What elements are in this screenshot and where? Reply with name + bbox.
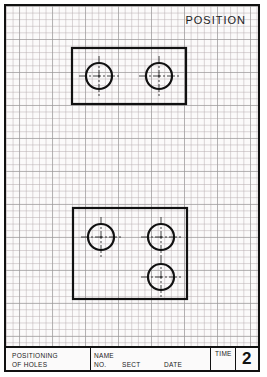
hole	[139, 56, 179, 96]
top-plate	[72, 48, 186, 104]
hole-drawings	[0, 0, 267, 377]
center-point	[160, 236, 161, 237]
hole	[81, 217, 121, 257]
center-point	[158, 75, 159, 76]
hole	[79, 56, 119, 96]
bottom-plate	[73, 208, 187, 299]
hole	[141, 257, 181, 297]
center-point	[100, 236, 101, 237]
center-point	[160, 276, 161, 277]
center-point	[98, 75, 99, 76]
hole	[141, 217, 181, 257]
